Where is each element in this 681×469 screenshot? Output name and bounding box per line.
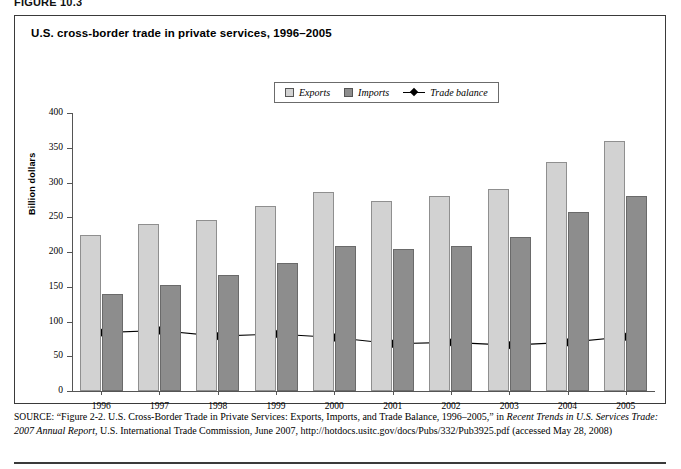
- figure-container: U.S. cross-border trade in private servi…: [14, 15, 666, 404]
- bar-imports: [160, 285, 181, 391]
- y-tick: 300: [67, 183, 72, 184]
- bar-exports: [80, 235, 101, 391]
- bar-imports: [568, 212, 589, 391]
- bar-exports: [488, 189, 509, 391]
- axes: 0501001502002503003504001996199719981999…: [72, 113, 655, 391]
- bar-exports: [429, 196, 450, 391]
- bar-imports: [102, 294, 123, 391]
- x-tick: [626, 391, 627, 395]
- y-tick-label: 300: [49, 177, 63, 187]
- y-tick: 100: [67, 322, 72, 323]
- y-axis-title: Billion dollars: [27, 152, 37, 215]
- figure-number-label: FIGURE 10.3: [14, 0, 82, 6]
- y-tick: 50: [67, 356, 72, 357]
- bar-exports: [371, 201, 392, 391]
- y-tick: 350: [67, 148, 72, 149]
- source-note: SOURCE: “Figure 2-2. U.S. Cross-Border T…: [14, 410, 666, 437]
- source-label: SOURCE:: [14, 412, 54, 422]
- x-tick: [334, 391, 335, 395]
- source-text-part2: , U.S. International Trade Commission, J…: [95, 425, 612, 436]
- bar-imports: [393, 249, 414, 391]
- bar-exports: [196, 220, 217, 391]
- y-tick: 200: [67, 252, 72, 253]
- y-tick-label: 50: [54, 350, 64, 360]
- x-tick: [393, 391, 394, 395]
- bar-imports: [626, 196, 647, 391]
- x-tick: [276, 391, 277, 395]
- plot-area: Billion dollars 050100150200250300350400…: [15, 16, 667, 405]
- bar-imports: [218, 275, 239, 391]
- x-tick: [159, 391, 160, 395]
- y-tick-label: 100: [49, 316, 63, 326]
- y-tick-label: 400: [49, 107, 63, 117]
- bar-exports: [138, 224, 159, 391]
- y-tick: 250: [67, 217, 72, 218]
- bar-exports: [604, 141, 625, 391]
- bar-exports: [313, 192, 334, 391]
- x-tick: [509, 391, 510, 395]
- y-tick: 400: [67, 113, 72, 114]
- bar-imports: [510, 237, 531, 391]
- y-tick-label: 250: [49, 211, 63, 221]
- y-tick-label: 0: [58, 385, 63, 395]
- bar-exports: [546, 162, 567, 391]
- bar-imports: [335, 246, 356, 391]
- bottom-divider: [14, 462, 666, 464]
- y-tick-label: 200: [49, 246, 63, 256]
- x-tick: [451, 391, 452, 395]
- y-tick: 0: [67, 391, 72, 392]
- x-tick: [218, 391, 219, 395]
- y-tick: 150: [67, 287, 72, 288]
- bar-exports: [255, 206, 276, 391]
- x-tick: [101, 391, 102, 395]
- source-text-part1: “Figure 2-2. U.S. Cross-Border Trade in …: [54, 411, 506, 422]
- y-tick-label: 150: [49, 281, 63, 291]
- bar-imports: [277, 263, 298, 391]
- bar-imports: [451, 246, 472, 391]
- y-tick-label: 350: [49, 142, 63, 152]
- x-tick: [568, 391, 569, 395]
